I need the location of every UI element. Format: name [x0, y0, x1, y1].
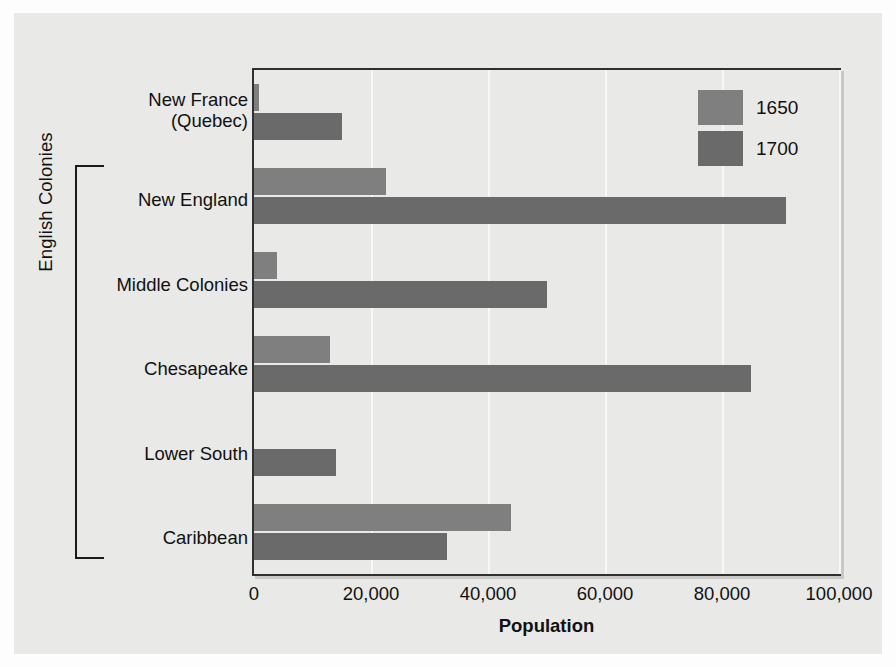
- category-label-line2: (Quebec): [110, 111, 248, 132]
- bracket-arm-top: [75, 165, 104, 167]
- plot-inner: 1650 1700: [254, 70, 839, 574]
- category-label-chesapeake: Chesapeake: [110, 359, 248, 380]
- x-tick-label-20000: 20,000: [343, 583, 400, 605]
- figure-page: English Colonies New France (Quebec) New…: [0, 0, 896, 667]
- gridline-40000: [488, 70, 490, 574]
- category-label-middle-colonies: Middle Colonies: [110, 275, 248, 296]
- x-tick-label-100000: 100,000: [806, 583, 873, 605]
- legend-entry-1650: 1650: [698, 90, 798, 125]
- bar-1700-caribbean: [254, 533, 447, 560]
- legend-label-1650: 1650: [756, 97, 798, 119]
- gridline-60000: [605, 70, 607, 574]
- bar-1650-caribbean: [254, 504, 511, 531]
- bar-1700-chesapeake: [254, 365, 751, 392]
- bar-1650-chesapeake: [254, 336, 330, 363]
- x-tick-label-40000: 40,000: [460, 583, 517, 605]
- x-tick-label-80000: 80,000: [694, 583, 751, 605]
- x-tick-label-0: 0: [249, 583, 259, 605]
- bar-1700-lower-south: [254, 449, 336, 476]
- legend-entry-1700: 1700: [698, 131, 798, 166]
- category-label-line1: New France: [110, 90, 248, 111]
- legend-swatch-1650: [698, 90, 743, 125]
- category-label-new-england: New England: [110, 190, 248, 211]
- english-colonies-label: English Colonies: [35, 52, 57, 352]
- bar-1700-new-england: [254, 197, 786, 224]
- category-label-caribbean: Caribbean: [110, 528, 248, 549]
- legend: 1650 1700: [698, 90, 828, 168]
- legend-swatch-1700: [698, 131, 743, 166]
- category-label-group: New France (Quebec) New England Middle C…: [110, 68, 248, 576]
- plot-area: 1650 1700: [252, 68, 841, 576]
- x-axis-title: Population: [252, 615, 841, 637]
- bar-1650-middle-colonies: [254, 252, 277, 279]
- category-label-lower-south: Lower South: [110, 444, 248, 465]
- bracket-spine: [75, 165, 77, 559]
- english-colonies-bracket: [75, 165, 105, 559]
- category-label-new-france: New France (Quebec): [110, 90, 248, 132]
- gridline-20000: [371, 70, 373, 574]
- legend-label-1700: 1700: [756, 138, 798, 160]
- x-tick-label-60000: 60,000: [577, 583, 634, 605]
- figure-panel: English Colonies New France (Quebec) New…: [14, 13, 882, 654]
- bar-1650-new-france-quebec: [254, 84, 259, 111]
- bar-1650-new-england: [254, 168, 386, 195]
- gridline-100000: [839, 70, 841, 574]
- bracket-arm-bottom: [75, 557, 104, 559]
- x-axis-tick-labels: 020,00040,00060,00080,000100,000: [252, 583, 841, 609]
- bar-1700-middle-colonies: [254, 281, 547, 308]
- bar-1700-new-france-quebec: [254, 113, 342, 140]
